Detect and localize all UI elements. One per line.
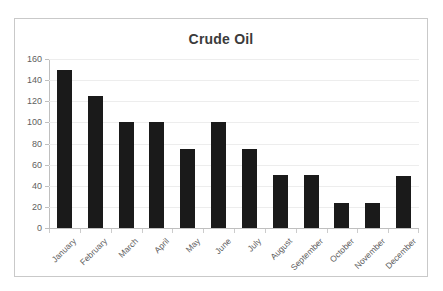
bar (211, 122, 226, 228)
y-tick-mark (45, 59, 49, 60)
x-tick-mark (388, 229, 389, 233)
y-tick-mark (45, 207, 49, 208)
y-tick-label: 140 (27, 75, 42, 85)
x-tick-mark (111, 229, 112, 233)
y-tick-mark (45, 80, 49, 81)
y-tick-mark (45, 165, 49, 166)
gridline (49, 122, 419, 123)
bar (334, 203, 349, 228)
y-tick-label: 0 (37, 223, 42, 233)
x-tick-mark (418, 229, 419, 233)
gridline (49, 101, 419, 102)
bar (180, 149, 195, 228)
bar (242, 149, 257, 228)
y-tick-label: 60 (32, 160, 42, 170)
gridline (49, 80, 419, 81)
y-tick-label: 20 (32, 202, 42, 212)
bar (149, 122, 164, 228)
chart-frame: Crude Oil 160140120100806040200 JanuaryF… (14, 18, 428, 277)
y-tick-mark (45, 101, 49, 102)
x-tick-mark (49, 229, 50, 233)
bar (88, 96, 103, 228)
x-tick-mark (172, 229, 173, 233)
y-tick-label: 160 (27, 54, 42, 64)
x-tick-mark (265, 229, 266, 233)
x-tick-mark (80, 229, 81, 233)
gridline (49, 165, 419, 166)
x-tick-mark (296, 229, 297, 233)
bar (304, 175, 319, 228)
bar (273, 175, 288, 228)
y-tick-mark (45, 144, 49, 145)
bar (396, 176, 411, 228)
x-tick-mark (203, 229, 204, 233)
y-tick-label: 80 (32, 139, 42, 149)
y-tick-label: 120 (27, 96, 42, 106)
gridline (49, 207, 419, 208)
bar (119, 122, 134, 228)
y-tick-mark (45, 186, 49, 187)
gridline (49, 59, 419, 60)
x-tick-mark (357, 229, 358, 233)
gridline (49, 186, 419, 187)
bar (57, 70, 72, 228)
y-tick-label: 100 (27, 117, 42, 127)
gridline (49, 144, 419, 145)
chart-title: Crude Oil (15, 31, 427, 47)
x-tick-mark (142, 229, 143, 233)
y-tick-mark (45, 122, 49, 123)
plot-area: 160140120100806040200 JanuaryFebruaryMar… (49, 59, 419, 229)
y-tick-label: 40 (32, 181, 42, 191)
bar (365, 203, 380, 228)
x-tick-mark (327, 229, 328, 233)
x-tick-mark (234, 229, 235, 233)
